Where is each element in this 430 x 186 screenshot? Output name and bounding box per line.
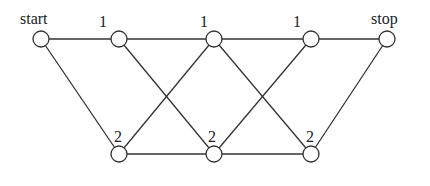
node-t2	[206, 31, 222, 47]
node-t3	[303, 31, 319, 47]
node-start	[33, 31, 49, 47]
node-b3	[303, 146, 319, 162]
node-label-t1: 1	[99, 13, 107, 30]
node-label-stop: stop	[371, 10, 398, 28]
node-t1	[111, 31, 127, 47]
edge-start-b1	[41, 39, 119, 154]
node-label-t2: 1	[200, 13, 208, 30]
graph-diagram: start111stop222	[0, 0, 430, 186]
node-b2	[206, 146, 222, 162]
node-label-b1: 2	[114, 128, 122, 145]
node-stop	[379, 31, 395, 47]
node-b1	[111, 146, 127, 162]
labels-group: start111stop222	[20, 10, 398, 145]
node-label-t3: 1	[293, 13, 301, 30]
node-label-start: start	[20, 10, 48, 27]
node-label-b3: 2	[306, 128, 314, 145]
node-label-b2: 2	[208, 128, 216, 145]
edge-b3-stop	[311, 39, 387, 154]
